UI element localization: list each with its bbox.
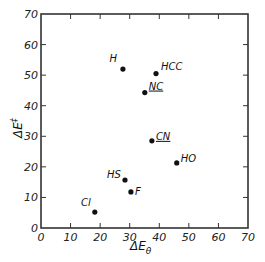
y-tick-label: 20 <box>24 161 38 174</box>
point-label: Cl <box>81 197 91 208</box>
x-axis-label: ΔEθ <box>129 239 152 256</box>
data-point <box>128 189 133 194</box>
x-tick-label: 60 <box>211 231 225 244</box>
point-label: CN <box>156 131 171 142</box>
y-tick-label: 60 <box>24 39 38 52</box>
data-point <box>92 210 97 215</box>
data-point <box>149 138 154 143</box>
data-point <box>174 160 179 165</box>
y-tick-label: 30 <box>24 130 38 143</box>
x-tick-label: 10 <box>64 231 78 244</box>
data-point <box>153 71 158 76</box>
x-tick-label: 50 <box>182 231 196 244</box>
plot-frame <box>41 14 248 228</box>
x-tick-label: 0 <box>38 231 45 244</box>
point-label: H <box>109 53 117 64</box>
x-tick-label: 70 <box>241 231 255 244</box>
data-point <box>142 90 147 95</box>
y-axis-label: ΔE‡ <box>10 117 25 139</box>
x-tick-label: 40 <box>152 231 166 244</box>
axis-ticks: 010203040506070010203040506070 <box>24 8 255 244</box>
data-points: HHCCNCCNHOHSFCl <box>81 53 196 215</box>
data-point <box>120 66 125 71</box>
point-label: NC <box>149 81 163 92</box>
data-point <box>122 177 127 182</box>
x-tick-label: 20 <box>93 231 107 244</box>
y-tick-label: 70 <box>24 8 38 21</box>
scatter-chart: 010203040506070010203040506070 HHCCNCCNH… <box>0 0 265 262</box>
point-label: HS <box>107 169 122 180</box>
y-tick-label: 40 <box>24 100 38 113</box>
y-tick-label: 10 <box>24 191 38 204</box>
y-tick-label: 0 <box>31 222 38 235</box>
point-label: HCC <box>161 61 183 72</box>
plot-border <box>41 14 248 228</box>
point-label: HO <box>181 153 197 164</box>
point-label: F <box>135 186 141 197</box>
y-tick-label: 50 <box>24 69 38 82</box>
